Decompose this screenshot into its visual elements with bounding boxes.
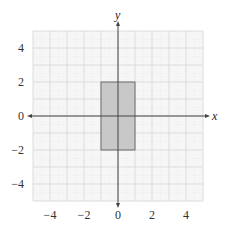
y-tick-label: 2 bbox=[18, 75, 24, 89]
y-tick-label: −2 bbox=[11, 143, 24, 157]
coordinate-plane: x y −4 −2 0 2 4 4 2 0 −2 −4 bbox=[0, 0, 227, 233]
x-axis-label: x bbox=[211, 109, 218, 123]
x-axis-right-arrow-icon bbox=[205, 114, 210, 118]
y-tick-labels: 4 2 0 −2 −4 bbox=[11, 41, 24, 191]
x-tick-labels: −4 −2 0 2 4 bbox=[44, 208, 189, 222]
x-tick-label: −2 bbox=[78, 208, 91, 222]
y-tick-label: −4 bbox=[11, 177, 24, 191]
y-axis-label: y bbox=[114, 8, 121, 22]
x-tick-label: −4 bbox=[44, 208, 57, 222]
x-tick-label: 0 bbox=[115, 208, 121, 222]
x-tick-label: 4 bbox=[183, 208, 189, 222]
y-tick-label: 4 bbox=[18, 41, 24, 55]
x-tick-label: 2 bbox=[149, 208, 155, 222]
x-axis-left-arrow-icon bbox=[27, 114, 32, 118]
y-tick-label: 0 bbox=[18, 109, 24, 123]
